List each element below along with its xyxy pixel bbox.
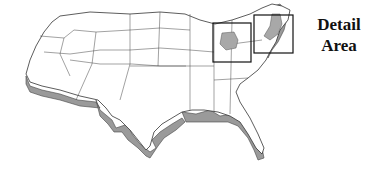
us-land: [26, 4, 290, 154]
detail-area-label: Detail Area: [308, 14, 370, 56]
detail-label-line1: Detail: [308, 14, 370, 35]
detail-label-line2: Area: [308, 35, 370, 56]
